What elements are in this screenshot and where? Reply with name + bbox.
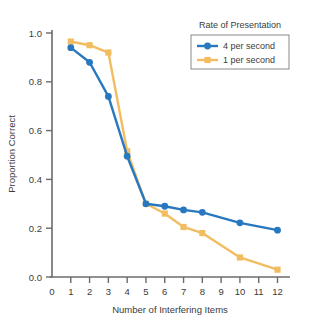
- y-tick-label: 1.0: [29, 28, 42, 39]
- legend-entries: 4 per second1 per second: [197, 41, 275, 65]
- data-point-marker: [105, 93, 112, 100]
- series-orange: [68, 38, 281, 272]
- x-axis-ticks: 0123456789101112: [49, 277, 282, 297]
- legend-label: 4 per second: [223, 41, 275, 51]
- legend: Rate of Presentation 4 per second1 per s…: [191, 20, 289, 69]
- data-point-marker: [237, 219, 244, 226]
- data-point-marker: [180, 224, 186, 230]
- y-tick-label: 0.4: [29, 174, 42, 185]
- y-tick-label: 0.6: [29, 125, 42, 136]
- data-point-marker: [67, 44, 74, 51]
- data-point-marker: [274, 267, 280, 273]
- y-axis-title: Proportion Correct: [6, 115, 17, 193]
- x-tick-label: 8: [200, 286, 205, 297]
- data-point-marker: [237, 254, 243, 260]
- legend-marker: [204, 57, 210, 63]
- data-point-marker: [124, 153, 131, 160]
- x-tick-label: 4: [125, 286, 130, 297]
- line-chart: 0.00.20.40.60.81.0 0123456789101112 Prop…: [0, 0, 312, 324]
- y-tick-label: 0.0: [29, 272, 42, 283]
- y-tick-label: 0.2: [29, 223, 42, 234]
- chart-figure: 0.00.20.40.60.81.0 0123456789101112 Prop…: [0, 0, 312, 324]
- x-tick-label: 7: [181, 286, 186, 297]
- legend-label: 1 per second: [223, 55, 275, 65]
- data-point-marker: [86, 42, 92, 48]
- x-tick-label: 3: [106, 286, 111, 297]
- x-tick-label: 5: [143, 286, 148, 297]
- data-point-marker: [143, 200, 150, 207]
- data-series-layer: [67, 38, 281, 272]
- y-tick-label: 0.8: [29, 76, 42, 87]
- data-point-marker: [105, 49, 111, 55]
- x-tick-label: 0: [49, 286, 54, 297]
- data-point-marker: [162, 210, 168, 216]
- y-axis-ticks: 0.00.20.40.60.81.0: [29, 28, 52, 283]
- data-point-marker: [199, 209, 206, 216]
- legend-title: Rate of Presentation: [199, 20, 281, 30]
- data-point-marker: [274, 227, 281, 234]
- series-line: [71, 42, 278, 270]
- x-tick-label: 10: [235, 286, 246, 297]
- series-line: [71, 48, 278, 231]
- series-blue: [67, 44, 281, 233]
- data-point-marker: [199, 230, 205, 236]
- x-axis-title: Number of Interfering Items: [112, 304, 228, 315]
- axis-lines: [50, 30, 290, 277]
- x-tick-label: 6: [162, 286, 167, 297]
- data-point-marker: [161, 203, 168, 210]
- data-point-marker: [86, 59, 93, 66]
- x-tick-label: 11: [254, 286, 264, 297]
- x-tick-label: 1: [68, 286, 73, 297]
- x-tick-label: 9: [218, 286, 223, 297]
- x-tick-label: 2: [87, 286, 92, 297]
- data-point-marker: [68, 38, 74, 44]
- data-point-marker: [180, 207, 187, 214]
- x-tick-label: 12: [272, 286, 283, 297]
- legend-marker: [204, 43, 211, 50]
